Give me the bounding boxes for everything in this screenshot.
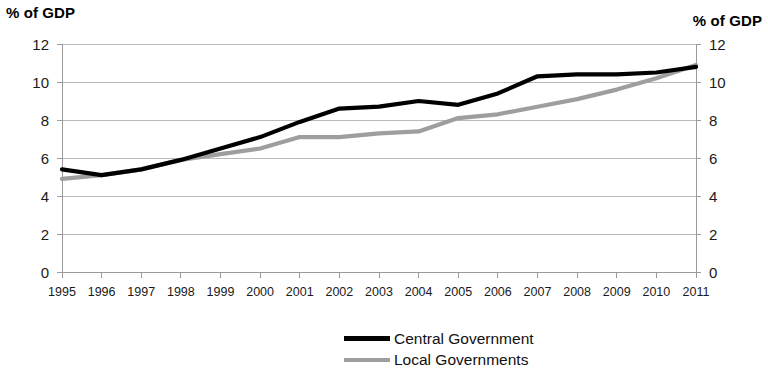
x-axis-tick-label: 2003 (365, 285, 393, 299)
legend-swatch-central-government (344, 336, 390, 341)
x-axis-tick-label: 2010 (642, 285, 670, 299)
y-axis-tick-label-right: 6 (709, 150, 717, 167)
y-axis-tick-label: 8 (41, 112, 49, 129)
x-axis-tick-label: 2001 (286, 285, 314, 299)
x-axis-tick-label: 2002 (325, 285, 353, 299)
x-axis-tick-label: 2011 (683, 285, 710, 299)
y-axis-tick-label: 10 (32, 74, 49, 91)
y-axis-tick-label-right: 4 (709, 188, 717, 205)
legend-label-central-government: Central Government (394, 330, 534, 348)
y-axis-tick-label: 0 (41, 264, 49, 281)
legend-item-local-governments: Local Governments (344, 349, 674, 370)
x-axis-tick-label: 2005 (444, 285, 472, 299)
y-axis-tick-label-right: 8 (709, 112, 717, 129)
x-axis-tick-label: 2000 (246, 285, 274, 299)
x-axis-tick-label: 1999 (207, 285, 235, 299)
x-axis-tick-label: 1995 (48, 285, 76, 299)
x-axis-tick-label: 2004 (405, 285, 433, 299)
chart-canvas: 0022446688101012121995199619971998199920… (0, 0, 768, 371)
y-axis-tick-label: 2 (41, 226, 49, 243)
x-axis-tick-label: 1998 (167, 285, 195, 299)
x-axis-tick-label: 2007 (524, 285, 552, 299)
y-axis-tick-label-right: 10 (709, 74, 726, 91)
legend-label-local-governments: Local Governments (394, 351, 528, 369)
y-axis-tick-label: 6 (41, 150, 49, 167)
series-line-central-government (62, 67, 696, 175)
y-axis-tick-label-right: 0 (709, 264, 717, 281)
y-axis-tick-label-right: 12 (709, 36, 726, 53)
legend-item-central-government: Central Government (344, 328, 674, 349)
x-axis-tick-label: 1996 (88, 285, 116, 299)
plot-area: 0022446688101012121995199619971998199920… (0, 0, 768, 371)
x-axis-tick-label: 2008 (563, 285, 591, 299)
y-axis-tick-label: 12 (32, 36, 49, 53)
x-axis-tick-label: 1997 (127, 285, 155, 299)
chart-legend: Central Government Local Governments (344, 328, 674, 370)
x-axis-tick-label: 2009 (603, 285, 631, 299)
x-axis-tick-label: 2006 (484, 285, 512, 299)
y-axis-tick-label: 4 (41, 188, 49, 205)
gdp-expenditure-line-chart: % of GDP % of GDP 0022446688101012121995… (0, 0, 768, 371)
legend-swatch-local-governments (344, 358, 390, 362)
y-axis-tick-label-right: 2 (709, 226, 717, 243)
